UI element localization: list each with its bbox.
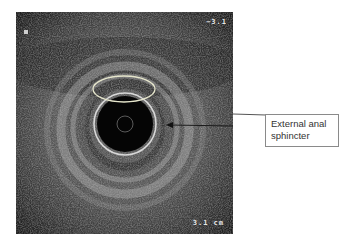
orientation-marker [24,30,28,34]
leader-line [233,110,266,120]
probe-lumen [97,96,153,152]
ultrasound-rendering [16,12,233,234]
annotation-label: External anal sphincter [271,118,338,142]
annotation-label-box: External anal sphincter [265,114,339,147]
scale-top-label: −3.1 [206,18,227,26]
scale-bottom-label: 3.1 cm [193,219,224,227]
ultrasound-image: −3.1 3.1 cm [16,12,233,234]
